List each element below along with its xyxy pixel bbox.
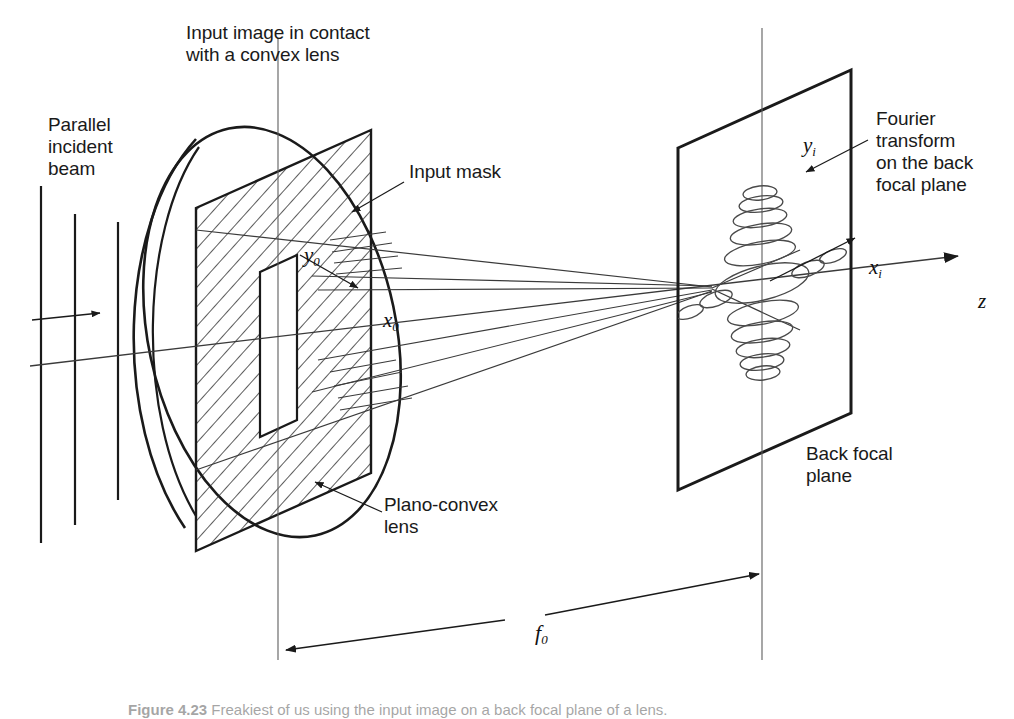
f0-dim-line-left <box>286 620 505 650</box>
focal-plane-quad <box>678 70 851 490</box>
axis-label-yi-base: y <box>803 133 812 157</box>
f0-dim-line-right <box>545 574 759 615</box>
axis-label-z-base: z <box>978 289 986 313</box>
axis-label-x0-sub: 0 <box>392 319 399 334</box>
axis-label-x0-base: x <box>383 308 392 332</box>
axis-label-y0-sub: 0 <box>313 254 320 269</box>
axis-label-yi-sub: i <box>812 144 816 159</box>
figure-caption-number: Figure 4.23 <box>128 701 207 718</box>
axis-label-xi: xi <box>848 230 882 307</box>
axis-label-xi-sub: i <box>878 266 882 281</box>
axis-label-xi-base: x <box>869 255 878 279</box>
beam-direction-arrow <box>32 313 100 320</box>
label-input-image-in-contact: Input image in contactwith a convex lens <box>186 22 370 66</box>
axis-label-y0-base: y <box>304 243 313 267</box>
axis-label-f0: f0 <box>513 594 548 674</box>
figure-caption: Figure 4.23 Freakiest of us using the in… <box>128 700 988 719</box>
axis-label-x0: x0 <box>362 283 399 360</box>
lens-convex-profile <box>134 139 196 528</box>
axis-label-z: z <box>957 264 986 339</box>
back-focal-plane <box>678 28 851 660</box>
label-parallel-incident-beam: Parallelincidentbeam <box>48 114 113 180</box>
label-fourier-transform: Fouriertransformon the backfocal plane <box>876 108 973 196</box>
figure-caption-text: Freakiest of us using the input image on… <box>207 701 667 718</box>
label-input-mask: Input mask <box>409 161 501 183</box>
axis-label-yi: yi <box>782 108 816 185</box>
label-plano-convex-lens: Plano-convexlens <box>384 494 498 538</box>
label-back-focal-plane: Back focalplane <box>806 443 893 487</box>
input-mask-plane <box>196 130 371 551</box>
axis-label-f0-sub: 0 <box>541 632 548 647</box>
leader-plano-convex <box>315 482 382 512</box>
axis-label-y0: y0 <box>283 218 320 295</box>
